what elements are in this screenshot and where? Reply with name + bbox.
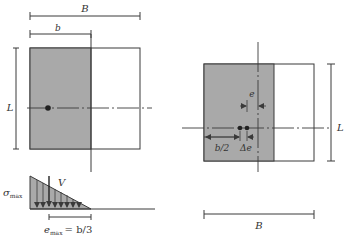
- label-delta-e: Δe: [239, 143, 252, 153]
- center-point-right: [238, 126, 243, 131]
- dim-L-left: [13, 48, 19, 149]
- dim-B-right: [204, 210, 314, 219]
- effective-area-left: [30, 48, 91, 149]
- left-figure: B b L: [3, 3, 155, 236]
- label-e-right: e: [249, 89, 254, 99]
- label-b-left: b: [55, 23, 61, 33]
- dim-emax: [49, 214, 91, 220]
- label-L-right: L: [336, 122, 344, 133]
- label-b2: b/2: [215, 143, 230, 153]
- label-L-left: L: [6, 102, 14, 113]
- load-point-right: [245, 126, 250, 131]
- label-B-right: B: [254, 220, 262, 231]
- load-point-left: [45, 105, 51, 111]
- label-V: V: [58, 177, 67, 188]
- label-sigma: σmax: [3, 187, 23, 199]
- label-B-left: B: [80, 3, 88, 14]
- label-emax: emax= b/3: [44, 224, 92, 236]
- foundation-eccentricity-diagram: B b L: [0, 0, 344, 242]
- right-figure: e b/2 Δe L B: [182, 42, 344, 231]
- dim-L-right: [327, 64, 335, 161]
